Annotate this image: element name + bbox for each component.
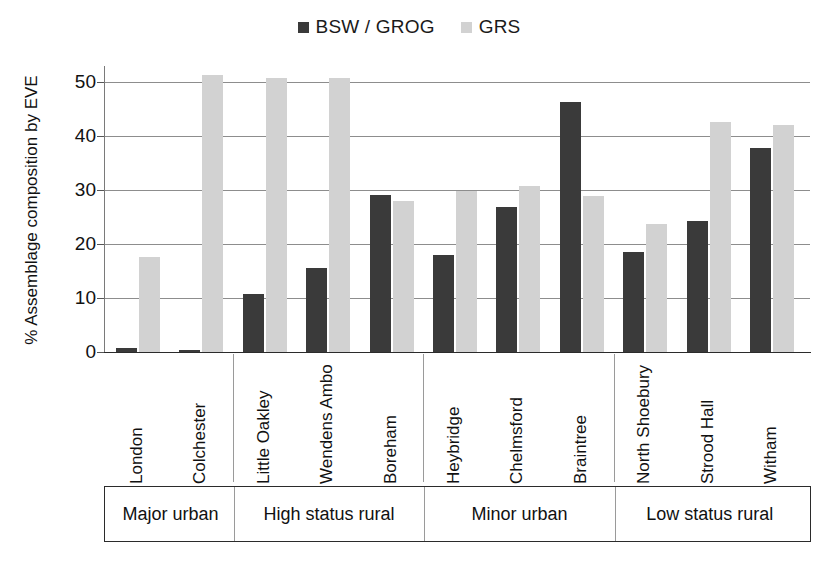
category-cell: High status rural — [234, 487, 424, 541]
category-divider — [234, 487, 235, 541]
bar — [773, 125, 794, 352]
bar — [306, 268, 327, 352]
x-axis-line — [104, 352, 811, 353]
bar — [266, 78, 287, 352]
category-label: Low status rural — [646, 504, 773, 525]
y-tick-label: 30 — [75, 179, 96, 201]
x-tick-label: London — [128, 427, 145, 484]
category-cell: Major urban — [107, 487, 234, 541]
x-tick-label: Little Oakley — [255, 390, 272, 484]
bar — [393, 201, 414, 352]
y-tick-label: 10 — [75, 287, 96, 309]
bar — [623, 252, 644, 352]
bar — [687, 221, 708, 352]
x-tick-label: Colchester — [191, 403, 208, 484]
bar — [433, 255, 454, 352]
plot-wrapper: % Assemblage composition by EVE 01020304… — [0, 0, 818, 571]
category-divider — [424, 487, 425, 541]
bar — [456, 191, 477, 352]
category-divider — [615, 487, 616, 541]
category-cell: Minor urban — [424, 487, 614, 541]
y-tick-label: 50 — [75, 71, 96, 93]
y-tick-label: 0 — [85, 341, 96, 363]
bar — [116, 348, 137, 352]
group-separator — [233, 354, 234, 482]
y-axis-tick-labels: 01020304050 — [48, 60, 104, 360]
bar — [329, 78, 350, 352]
x-tick-label: Braintree — [572, 415, 589, 484]
group-separator — [423, 354, 424, 482]
bar — [646, 224, 667, 352]
bar-chart: BSW / GROG GRS % Assemblage composition … — [0, 0, 818, 571]
x-tick-label: Heybridge — [445, 407, 462, 485]
bar — [583, 196, 604, 352]
bar — [750, 148, 771, 352]
y-tick-label: 20 — [75, 233, 96, 255]
category-cell: Low status rural — [615, 487, 805, 541]
category-band: Major urbanHigh status ruralMinor urbanL… — [104, 486, 811, 542]
category-label: High status rural — [264, 504, 395, 525]
category-label: Major urban — [122, 504, 218, 525]
bar — [710, 122, 731, 352]
bar — [139, 257, 160, 353]
category-label: Minor urban — [471, 504, 567, 525]
bar — [519, 186, 540, 352]
bar — [243, 294, 264, 352]
bar — [179, 350, 200, 352]
bar — [202, 75, 223, 352]
x-axis-site-labels: LondonColchesterLittle OakleyWendens Amb… — [104, 354, 811, 486]
x-tick-label: Boreham — [382, 415, 399, 484]
x-tick-label: North Shoebury — [635, 365, 652, 484]
group-separator — [614, 354, 615, 482]
bars-layer — [104, 66, 810, 352]
y-axis-title: % Assemblage composition by EVE — [22, 60, 42, 360]
bar — [496, 207, 517, 352]
x-tick-label: Witham — [762, 426, 779, 484]
x-tick-label: Wendens Ambo — [318, 364, 335, 484]
x-tick-label: Chelmsford — [508, 397, 525, 484]
x-tick-label: Strood Hall — [699, 400, 716, 484]
y-tick-label: 40 — [75, 125, 96, 147]
bar — [370, 195, 391, 352]
bar — [560, 102, 581, 352]
